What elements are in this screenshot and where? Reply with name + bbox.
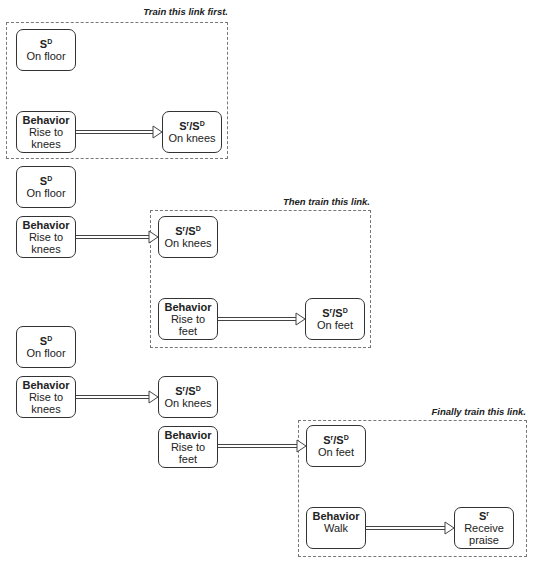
arrow-icon — [76, 391, 158, 403]
arrow-icon — [76, 126, 162, 138]
arrow-icon — [366, 522, 454, 534]
arrow-icon — [76, 231, 158, 243]
arrow-icon — [218, 313, 305, 325]
arrow-icon — [218, 440, 306, 452]
arrows-layer — [0, 0, 534, 571]
